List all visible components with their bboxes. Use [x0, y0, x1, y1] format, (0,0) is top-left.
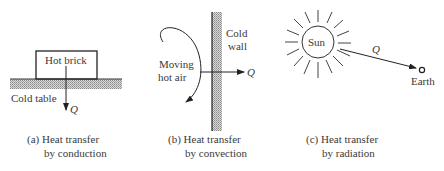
- caption-b-line2: by convection: [185, 147, 248, 159]
- caption-c-line1: (c) Heat transfer: [306, 133, 378, 146]
- cold-wall-label-line2: wall: [228, 40, 247, 52]
- sun-label: Sun: [308, 36, 326, 48]
- cold-table-label: Cold table: [11, 92, 57, 104]
- heat-q-label-c: Q: [372, 43, 380, 55]
- caption-b-line1: (b) Heat transfer: [168, 133, 241, 146]
- moving-air-label-line2: hot air: [158, 71, 187, 83]
- moving-air-label-line1: Moving: [159, 58, 194, 70]
- cold-wall-label-line1: Cold: [226, 27, 248, 39]
- earth-circle: [419, 67, 424, 72]
- heat-q-label-a: Q: [70, 103, 78, 115]
- caption-c-line2: by radiation: [322, 147, 375, 159]
- panel-conduction: Hot brick Cold table Q (a) Heat transfer…: [10, 51, 122, 159]
- hot-brick-label: Hot brick: [45, 54, 87, 66]
- earth-label: Earth: [411, 75, 435, 87]
- heat-q-label-b: Q: [247, 66, 255, 78]
- panel-radiation: Sun Q Earth (c) Heat transfer by radiati…: [285, 10, 435, 159]
- caption-a-line2: by conduction: [44, 147, 107, 159]
- panel-convection: Cold wall Moving hot air Q (b) Heat tran…: [158, 12, 255, 159]
- heat-transfer-diagram: Hot brick Cold table Q (a) Heat transfer…: [0, 0, 444, 171]
- caption-a-line1: (a) Heat transfer: [27, 133, 99, 146]
